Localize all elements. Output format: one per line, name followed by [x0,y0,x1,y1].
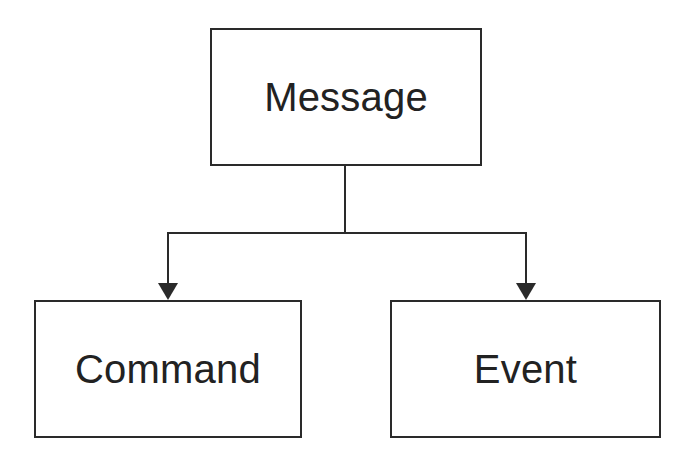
node-command: Command [34,300,302,438]
node-event: Event [390,300,661,438]
node-label: Command [75,347,261,392]
arrowhead-command-icon [158,283,178,300]
node-label: Message [264,75,428,120]
node-label: Event [474,347,577,392]
node-message: Message [210,28,482,166]
arrowhead-event-icon [516,283,536,300]
